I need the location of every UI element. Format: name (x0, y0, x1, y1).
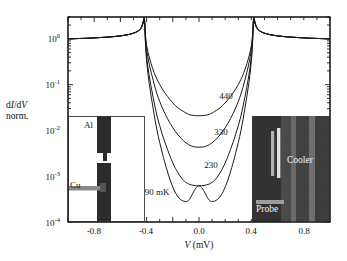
curve-label-440: 440 (219, 91, 233, 101)
xtick-label-neg0-4: -0.4 (139, 226, 153, 236)
ytick-label-1e0: 100 (28, 32, 60, 44)
inset-left-label-cu: Cu (70, 180, 81, 190)
curve-label-330: 330 (214, 127, 228, 137)
y-axis-title-line2: norm. (6, 111, 28, 122)
x-axis-unit: (mV) (193, 240, 214, 250)
figure-root: 100 10-1 10-2 10-3 10-4 dI/dV norm. -0.8… (0, 0, 347, 261)
inset-left-schematic (68, 116, 145, 222)
xtick-label-neg0-8: -0.8 (87, 226, 101, 236)
ytick-label-1e-2: 10-2 (28, 124, 60, 136)
inset-right-label-probe: Probe (256, 204, 278, 214)
y-axis-title: dI/dV norm. (6, 100, 28, 122)
inset-left-label-al: Al (84, 120, 93, 130)
inset-right-label-cooler: Cooler (287, 155, 313, 165)
x-axis-symbol: V (185, 240, 191, 250)
ytick-label-1e-4: 10-4 (28, 216, 60, 228)
y-axis-title-line1: dI/dV (6, 100, 28, 111)
curve-label-90mk: 90 mK (145, 187, 170, 197)
xtick-label-0-0: 0.0 (193, 226, 204, 236)
ytick-label-1e-3: 10-3 (28, 170, 60, 182)
x-axis-title: V (mV) (185, 240, 214, 250)
xtick-label-0-8: 0.8 (298, 226, 309, 236)
xtick-label-0-4: 0.4 (245, 226, 256, 236)
ytick-label-1e-1: 10-1 (28, 78, 60, 90)
curve-label-230: 230 (204, 160, 218, 170)
